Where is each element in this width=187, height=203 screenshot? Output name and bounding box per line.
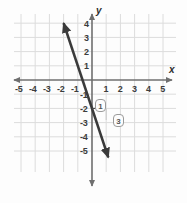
y-tick-label--4: -4: [80, 133, 88, 142]
x-axis-label: x: [169, 65, 175, 75]
rise-marker: 3: [113, 114, 124, 127]
graph-canvas: [0, 0, 187, 203]
coordinate-plane-figure: -5 -4 -3 -2 -1 1 2 3 4 5 4 3 2 1 -1 -2 -…: [0, 0, 187, 203]
y-tick-label-4: 4: [84, 20, 89, 29]
y-tick-label--5: -5: [80, 147, 88, 156]
x-tick-label--3: -3: [43, 85, 51, 94]
y-tick-label-2: 2: [84, 48, 89, 57]
x-tick-label-3: 3: [132, 85, 137, 94]
x-tick-label--4: -4: [29, 85, 37, 94]
y-tick-label-3: 3: [84, 34, 89, 43]
y-tick-label--1: -1: [80, 91, 88, 100]
x-tick-label-5: 5: [160, 85, 165, 94]
run-marker: 1: [95, 99, 106, 112]
x-tick-label-4: 4: [146, 85, 151, 94]
y-tick-label-1: 1: [84, 62, 89, 71]
x-tick-label-1: 1: [104, 85, 109, 94]
x-tick-label--1: -1: [71, 85, 79, 94]
x-tick-label--5: -5: [15, 85, 23, 94]
x-tick-label--2: -2: [57, 85, 65, 94]
y-tick-label--2: -2: [80, 105, 88, 114]
y-axis-label: y: [96, 6, 102, 16]
y-tick-label--3: -3: [80, 119, 88, 128]
plot-background: [0, 0, 187, 203]
x-tick-label-2: 2: [118, 85, 123, 94]
